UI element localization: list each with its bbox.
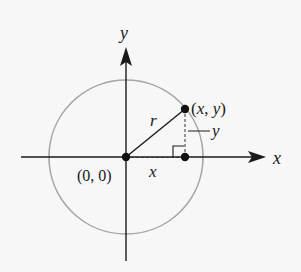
horizontal-leg-label: x bbox=[148, 162, 157, 181]
circle-point bbox=[181, 105, 189, 113]
unit-circle-diagram: y x (0, 0) (x, y) r y x bbox=[0, 0, 301, 272]
point-label: (x, y) bbox=[191, 99, 226, 118]
y-axis-label: y bbox=[118, 23, 128, 43]
vertical-leg-label: y bbox=[210, 121, 220, 140]
radius-label: r bbox=[150, 111, 157, 130]
foot-point bbox=[181, 153, 189, 161]
origin-point bbox=[122, 153, 130, 161]
origin-label: (0, 0) bbox=[77, 167, 112, 185]
x-axis-label: x bbox=[272, 148, 281, 168]
